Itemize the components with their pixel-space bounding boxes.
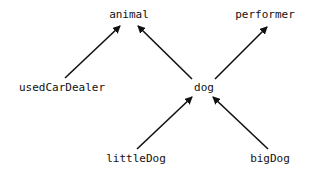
node-performer: performer bbox=[235, 9, 295, 21]
edge-littleDog-to-dog bbox=[137, 97, 192, 149]
inheritance-diagram: animal performer usedCarDealer dog littl… bbox=[0, 0, 312, 180]
edge-dog-to-performer bbox=[215, 27, 267, 79]
node-little-dog: littleDog bbox=[106, 153, 166, 165]
edge-dog-to-animal bbox=[138, 26, 192, 79]
node-big-dog: bigDog bbox=[250, 153, 290, 165]
edge-bigDog-to-dog bbox=[213, 97, 268, 149]
edge-usedCarDealer-to-animal bbox=[65, 26, 120, 78]
node-dog: dog bbox=[194, 82, 214, 94]
node-used-car-dealer: usedCarDealer bbox=[19, 82, 105, 94]
node-animal: animal bbox=[109, 9, 149, 21]
